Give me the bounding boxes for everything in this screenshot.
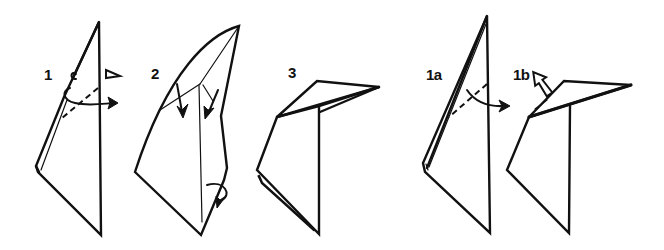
step-1b-figure (507, 70, 631, 233)
pull-out-arrow-icon (533, 70, 552, 98)
step-3-figure (257, 81, 379, 234)
step-1a-figure (423, 16, 510, 233)
valley-fold-arrow-icon (467, 90, 505, 106)
step-2-figure (135, 26, 239, 235)
hollow-arrow-icon (106, 70, 120, 78)
step-1-figure (36, 22, 120, 235)
diagram-canvas (0, 0, 664, 250)
